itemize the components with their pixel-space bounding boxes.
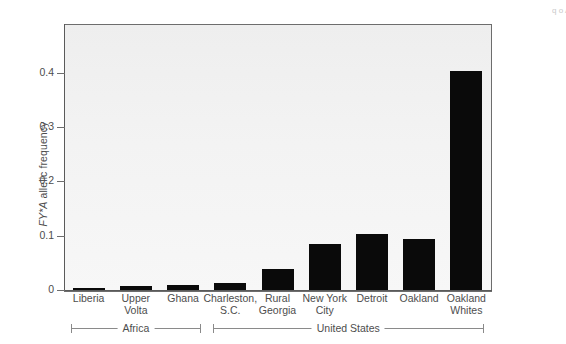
x-axis-line <box>64 290 492 291</box>
bar <box>73 288 105 290</box>
bar <box>309 244 341 290</box>
y-axis-tick <box>57 236 65 237</box>
x-axis-category-label-line: Oakland <box>439 293 494 305</box>
group-bracket-label: United States <box>312 322 385 335</box>
y-axis-tick-label: 0.3 <box>12 121 54 132</box>
bar <box>356 234 388 290</box>
x-axis-category-label-line: Volta <box>108 305 163 317</box>
bar <box>262 269 294 290</box>
group-bracket-cap-left <box>71 324 72 333</box>
group-bracket: Africa <box>71 322 201 336</box>
clipped-caption-fragment: q o A <box>552 6 566 16</box>
bar <box>450 71 482 290</box>
y-axis-tick-label: 0.2 <box>12 175 54 186</box>
y-axis-label-italic: FY*A <box>37 202 49 227</box>
bar <box>214 283 246 290</box>
x-axis-category-labels: LiberiaUpperVoltaGhanaCharleston,S.C.Rur… <box>65 293 490 319</box>
y-axis-label-plain: allelic frequency <box>37 122 49 202</box>
y-axis-tick-label: 0 <box>12 284 54 295</box>
group-brackets: AfricaUnited States <box>65 322 490 340</box>
group-bracket-label: Africa <box>117 322 154 335</box>
bar <box>167 285 199 290</box>
y-axis-tick-label: 0.1 <box>12 230 54 241</box>
bar <box>403 239 435 290</box>
y-axis-tick <box>57 290 65 291</box>
bar <box>120 286 152 290</box>
figure-bar-chart: FY*A allelic frequency 00.10.20.30.4 Lib… <box>0 0 566 344</box>
y-axis-tick <box>57 181 65 182</box>
y-axis-tick-label: 0.4 <box>12 67 54 78</box>
y-axis-tick <box>57 127 65 128</box>
group-bracket-cap-right <box>483 324 484 333</box>
x-axis-category-label-line: City <box>297 305 352 317</box>
x-axis-category-label-line: Whites <box>439 305 494 317</box>
group-bracket-cap-left <box>213 324 214 333</box>
bars-group <box>65 24 490 290</box>
y-axis-tick <box>57 73 65 74</box>
group-bracket: United States <box>213 322 484 336</box>
x-axis-category-label: OaklandWhites <box>439 293 494 316</box>
group-bracket-cap-right <box>200 324 201 333</box>
